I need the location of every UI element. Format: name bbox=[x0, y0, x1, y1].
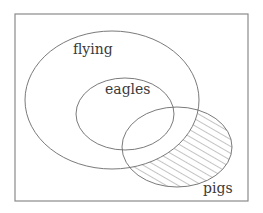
eagles-label: eagles bbox=[105, 81, 151, 97]
pigs-label: pigs bbox=[203, 180, 233, 196]
venn-diagram: flying eagles pigs bbox=[0, 0, 263, 213]
flying-label: flying bbox=[73, 41, 113, 57]
